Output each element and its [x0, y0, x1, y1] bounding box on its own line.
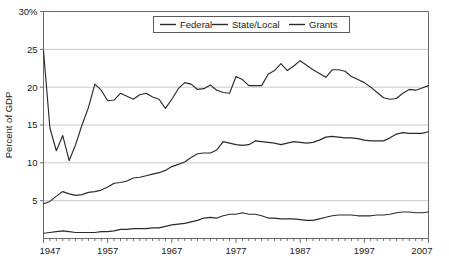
y-axis-title: Percent of GDP	[3, 92, 14, 159]
x-tick-label-1997: 1997	[354, 245, 375, 256]
y-tick-label-30: 30%	[18, 6, 38, 17]
legend-label-federal: Federal	[180, 19, 212, 30]
chart-container: 30%2520151051947195719671977198719972007…	[0, 0, 449, 263]
series-line-grants	[44, 212, 429, 233]
legend-label-state-local: State/Local	[232, 19, 280, 30]
x-tick-label-1987: 1987	[290, 245, 311, 256]
x-tick-label-1977: 1977	[225, 245, 246, 256]
x-tick-label-1957: 1957	[97, 245, 118, 256]
legend-label-grants: Grants	[309, 19, 338, 30]
line-chart: 30%2520151051947195719671977198719972007…	[0, 0, 449, 263]
series-line-state-local	[44, 132, 429, 204]
x-tick-label-1947: 1947	[40, 245, 61, 256]
x-tick-label-2007: 2007	[411, 245, 432, 256]
y-tick-label-5: 5	[32, 195, 37, 206]
y-tick-label-25: 25	[27, 44, 38, 55]
y-tick-label-15: 15	[27, 119, 38, 130]
y-tick-label-10: 10	[27, 157, 38, 168]
y-tick-label-20: 20	[27, 82, 38, 93]
x-tick-label-1967: 1967	[161, 245, 182, 256]
